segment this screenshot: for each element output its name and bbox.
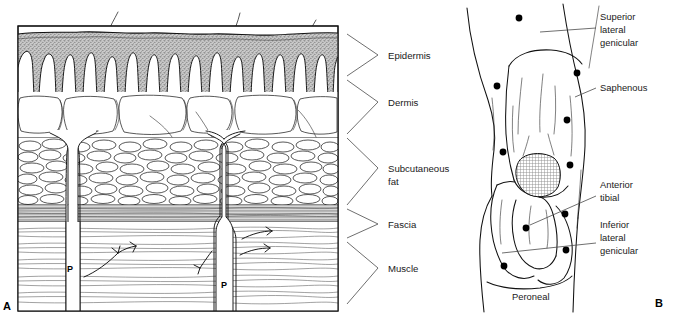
injection-point (500, 149, 507, 156)
figure-root: P P Epidermis Dermis Subcutaneous fat Fa… (0, 0, 673, 318)
panel-a-svg: P P Epidermis Dermis Subcutaneous fat Fa… (0, 0, 455, 318)
label-superior-lateral-genicular-l2: lateral (600, 24, 626, 35)
injection-point (564, 117, 571, 124)
label-muscle: Muscle (388, 263, 418, 274)
injection-point (567, 162, 574, 169)
injection-point (501, 263, 508, 270)
label-anterior-tibial-l1: Anterior (600, 179, 633, 190)
panel-a-skin-cross-section: P P Epidermis Dermis Subcutaneous fat Fa… (0, 0, 455, 318)
perforator-marker-2: P (221, 280, 227, 290)
label-superior-lateral-genicular-l1: Superior (600, 11, 635, 22)
label-fascia: Fascia (388, 219, 417, 230)
label-saphenous: Saphenous (600, 82, 648, 93)
label-superior-lateral-genicular-l3: genicular (600, 37, 638, 48)
label-anterior-tibial-l2: tibial (600, 192, 619, 203)
panel-a-leaders (347, 34, 378, 304)
patella (516, 154, 560, 197)
injection-point (494, 83, 501, 90)
injection-point (562, 211, 569, 218)
injection-point (574, 70, 581, 77)
label-epidermis: Epidermis (388, 50, 431, 61)
saphenous-leader (575, 88, 596, 97)
panel-letter-b: B (655, 297, 663, 309)
label-inferior-lateral-genicular-l2: lateral (600, 232, 626, 243)
panel-letter-a: A (3, 300, 11, 312)
injection-point (523, 225, 530, 232)
subcutaneous-fat-layer (17, 138, 339, 206)
label-subcutaneous-fat-line2: fat (388, 176, 399, 187)
panel-b-knee-nerve-sites: Superior lateral genicular Saphenous Ant… (455, 0, 673, 318)
label-dermis: Dermis (388, 97, 419, 108)
panel-b-svg: Superior lateral genicular Saphenous Ant… (455, 0, 673, 318)
label-inferior-lateral-genicular-l3: genicular (600, 245, 638, 256)
label-subcutaneous: Subcutaneous (388, 163, 450, 174)
injection-point (516, 15, 523, 22)
label-inferior-lateral-genicular-l1: Inferior (600, 219, 629, 230)
perforator-marker-1: P (67, 264, 73, 274)
injection-point (563, 247, 570, 254)
panel-b-leaders (502, 28, 596, 253)
anterior-tibial-leader (530, 196, 596, 225)
label-peroneal: Peroneal (512, 291, 550, 302)
